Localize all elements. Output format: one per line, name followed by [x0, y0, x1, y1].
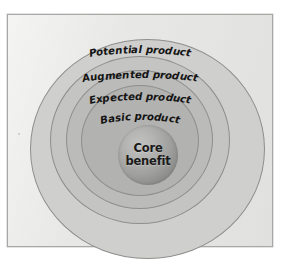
label-basic-product-text: Basic product [100, 111, 180, 122]
core-benefit-line-2: benefit [125, 155, 170, 168]
label-augmented-product: Augmented product [8, 69, 272, 80]
label-augmented-product-text: Augmented product [82, 69, 198, 80]
label-expected-product: Expected product [8, 91, 272, 102]
label-expected-product-text: Expected product [89, 91, 192, 102]
diagram-frame: Core benefit Potential product Augmented… [7, 14, 273, 247]
label-potential-product-text: Potential product [89, 44, 191, 55]
paper-speck [18, 133, 20, 135]
product-levels-figure: Core benefit Potential product Augmented… [0, 0, 283, 260]
label-basic-product: Basic product [8, 111, 272, 122]
label-potential-product: Potential product [8, 44, 272, 55]
core-benefit-sphere: Core benefit [118, 125, 178, 185]
